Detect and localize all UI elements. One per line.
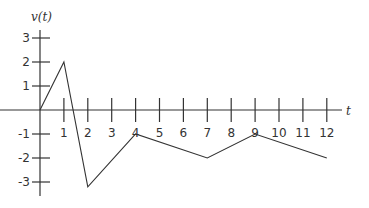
velocity-chart: 123456789101112321-1-2-3 v(t) t [0,0,369,208]
x-tick-label: 6 [180,126,188,140]
x-tick-label: 8 [227,126,235,140]
x-axis-label: t [346,104,351,118]
x-tick-label: 4 [132,126,140,140]
x-tick-label: 12 [319,126,334,140]
y-axis-label: v(t) [31,10,52,24]
y-tick-label: 2 [22,55,30,69]
x-tick-label: 9 [251,126,259,140]
x-tick-label: 2 [84,126,92,140]
axes [0,30,342,196]
y-tick-label: -3 [18,175,30,189]
y-tick-label: 1 [22,79,30,93]
x-tick-label: 3 [108,126,116,140]
x-tick-label: 7 [203,126,211,140]
x-tick-label: 11 [295,126,310,140]
velocity-line [40,62,327,187]
y-tick-label: 3 [22,31,30,45]
y-tick-label: -2 [18,151,30,165]
x-tick-label: 1 [60,126,68,140]
y-tick-label: -1 [18,127,30,141]
x-tick-label: 5 [156,126,164,140]
x-tick-label: 10 [271,126,286,140]
